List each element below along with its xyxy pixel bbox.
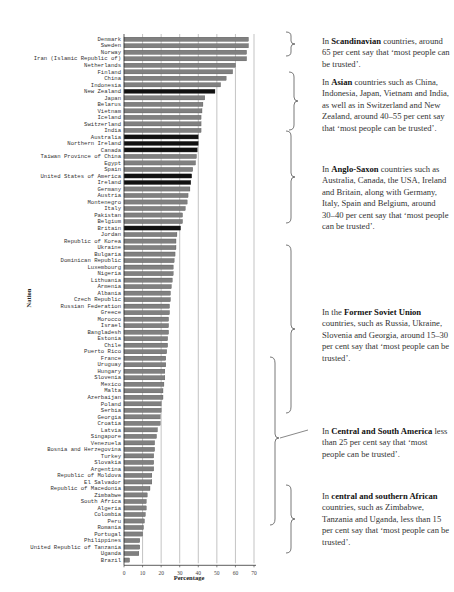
note-former-soviet: In the Former Soviet Union countries, su…: [322, 307, 450, 364]
brace-anglo-saxon-icon: [284, 130, 298, 224]
annotation-panel: In Scandinavian countries, around 65 per…: [0, 0, 454, 592]
note-anglo-saxon: In Anglo-Saxon countries such as Austral…: [322, 164, 450, 232]
brace-scandinavian-icon: [284, 31, 298, 57]
note-scandinavian: In Scandinavian countries, around 65 per…: [322, 36, 450, 70]
brace-african-icon: [284, 484, 298, 554]
note-asian: In Asian countries such as China, Indone…: [322, 77, 450, 134]
note-african: In central and southern African countrie…: [322, 491, 450, 548]
brace-asian-icon: [287, 71, 301, 131]
note-central-south-america: In Central and South America less than 2…: [322, 426, 450, 460]
